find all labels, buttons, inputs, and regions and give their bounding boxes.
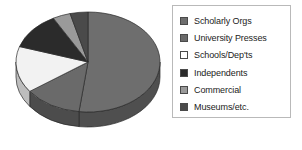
pie-chart xyxy=(0,0,170,150)
legend-item-scholarly-orgs[interactable]: Scholarly Orgs xyxy=(180,12,290,29)
legend-item-label: Independents xyxy=(194,68,247,78)
chart-figure: Scholarly Orgs University Presses School… xyxy=(0,0,302,150)
pie-slices xyxy=(16,12,160,112)
legend-item-label: Museums/etc. xyxy=(194,102,249,112)
pie-chart-svg xyxy=(0,0,170,150)
legend-item-commercial[interactable]: Commercial xyxy=(180,81,290,98)
legend-swatch-icon xyxy=(180,51,188,59)
legend-swatch-icon xyxy=(180,17,188,25)
legend-item-label: Commercial xyxy=(194,85,241,95)
legend-swatch-icon xyxy=(180,69,188,77)
legend-swatch-icon xyxy=(180,86,188,94)
legend-item-label: Schools/Dep'ts xyxy=(194,50,252,60)
legend-item-museums-etc[interactable]: Museums/etc. xyxy=(180,98,290,115)
legend-item-label: Scholarly Orgs xyxy=(194,16,252,26)
legend-item-university-presses[interactable]: University Presses xyxy=(180,29,290,46)
legend-swatch-icon xyxy=(180,103,188,111)
legend-item-schools-depts[interactable]: Schools/Dep'ts xyxy=(180,47,290,64)
chart-legend: Scholarly Orgs University Presses School… xyxy=(172,5,291,118)
legend-item-independents[interactable]: Independents xyxy=(180,64,290,81)
legend-swatch-icon xyxy=(180,34,188,42)
legend-item-label: University Presses xyxy=(194,33,267,43)
